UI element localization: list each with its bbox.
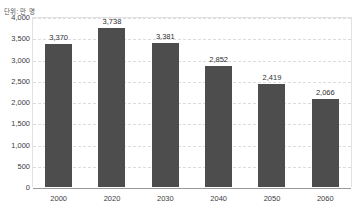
bar	[312, 99, 339, 187]
bar-group: 2,852	[194, 17, 244, 187]
bar-chart: 단위: 만 명 4,0003,5003,0002,5002,0001,5001,…	[0, 0, 360, 219]
y-axis-tick-label: 2,000	[11, 98, 30, 107]
x-axis-tick-label: 2030	[140, 188, 190, 203]
y-axis-tick-label: 3,500	[11, 34, 30, 43]
y-axis-tick-label: 1,500	[11, 119, 30, 128]
y-axis-tick-label: 500	[17, 161, 30, 170]
y-axis-tick-label: 4,000	[11, 13, 30, 22]
bar-group: 2,419	[247, 17, 297, 187]
y-axis: 4,0003,5003,0002,5002,0001,5001,0005000	[0, 17, 30, 187]
bar	[205, 66, 232, 187]
x-axis: 200020202030204020502060	[32, 188, 352, 214]
bar-series: 3,3703,7383,3812,8522,4192,066	[32, 17, 352, 187]
y-axis-tick-label: 0	[26, 183, 30, 192]
bar	[45, 44, 72, 187]
bar-value-label: 2,852	[209, 55, 228, 64]
x-axis-tick-label: 2000	[34, 188, 84, 203]
bar-value-label: 2,066	[316, 88, 335, 97]
bar-value-label: 3,738	[103, 17, 122, 26]
bar	[258, 84, 285, 187]
x-axis-tick-label: 2020	[87, 188, 137, 203]
bar	[98, 28, 125, 187]
bar-group: 2,066	[300, 17, 350, 187]
y-axis-tick-label: 2,500	[11, 76, 30, 85]
x-axis-tick-label: 2040	[194, 188, 244, 203]
bar-group: 3,370	[34, 17, 84, 187]
bar	[152, 43, 179, 187]
bar-value-label: 2,419	[263, 73, 282, 82]
bar-value-label: 3,381	[156, 32, 175, 41]
x-axis-tick-label: 2050	[247, 188, 297, 203]
y-axis-tick-label: 1,000	[11, 140, 30, 149]
bar-group: 3,738	[87, 17, 137, 187]
x-axis-tick-label: 2060	[300, 188, 350, 203]
y-axis-tick-label: 3,000	[11, 55, 30, 64]
bar-group: 3,381	[140, 17, 190, 187]
bar-value-label: 3,370	[49, 33, 68, 42]
